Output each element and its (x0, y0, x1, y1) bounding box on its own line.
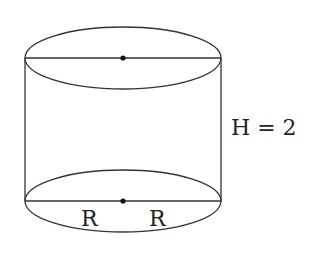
cylinder-diagram: H = 2 R R (0, 0, 311, 256)
bottom-center-point (120, 198, 125, 203)
radius-label-right: R (149, 206, 167, 231)
height-label: H = 2 (231, 115, 297, 140)
radius-label-left: R (81, 206, 99, 231)
top-center-point (120, 55, 125, 60)
